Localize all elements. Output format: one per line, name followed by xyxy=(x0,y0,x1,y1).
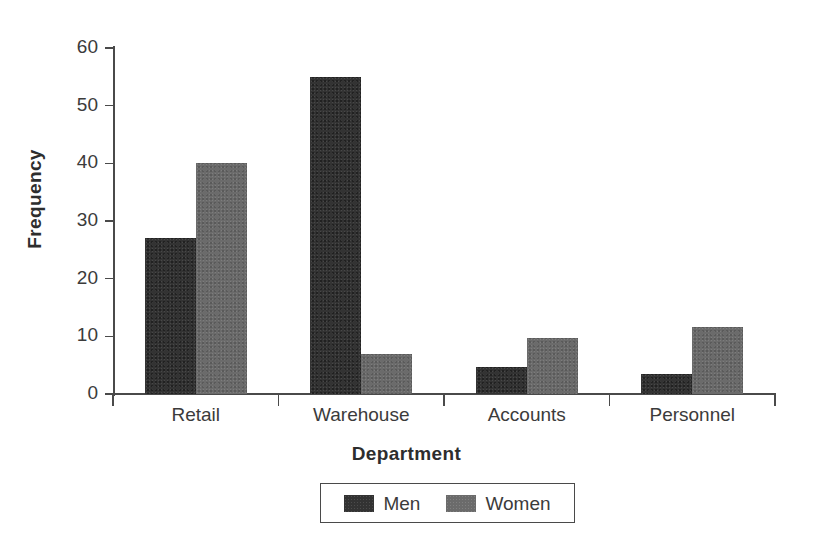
legend-swatch-men-icon xyxy=(344,495,374,512)
y-tick-label: 40 xyxy=(54,152,98,171)
legend-label-women: Women xyxy=(485,494,550,513)
y-tick-label: 10 xyxy=(54,325,98,344)
legend-label-men: Men xyxy=(383,494,420,513)
chart-legend: MenWomen xyxy=(320,483,575,523)
legend-entry-men: Men xyxy=(344,494,420,513)
bar-accounts-men xyxy=(476,367,527,394)
bar-chart-figure: Frequency 0102030405060 RetailWarehouseA… xyxy=(0,0,813,548)
y-tick-label: 50 xyxy=(54,95,98,114)
bar-warehouse-women xyxy=(361,354,412,394)
bar-warehouse-men xyxy=(310,77,361,394)
x-axis-label-personnel: Personnel xyxy=(610,404,776,426)
x-axis-title: Department xyxy=(0,443,813,465)
y-axis-title: Frequency xyxy=(24,119,46,279)
y-tick-label: 60 xyxy=(54,37,98,56)
y-tick-label: 0 xyxy=(54,383,98,402)
x-axis-label-retail: Retail xyxy=(113,404,279,426)
legend-entry-women: Women xyxy=(446,494,550,513)
x-axis-label-warehouse: Warehouse xyxy=(279,404,445,426)
y-tick-label: 20 xyxy=(54,268,98,287)
bar-accounts-women xyxy=(527,338,578,394)
bar-personnel-men xyxy=(641,374,692,394)
legend-swatch-women-icon xyxy=(446,495,476,512)
plot-area xyxy=(113,48,775,394)
bar-personnel-women xyxy=(692,327,743,394)
x-axis-label-accounts: Accounts xyxy=(444,404,610,426)
bar-retail-men xyxy=(145,238,196,394)
bar-retail-women xyxy=(196,163,247,394)
y-tick-label: 30 xyxy=(54,210,98,229)
